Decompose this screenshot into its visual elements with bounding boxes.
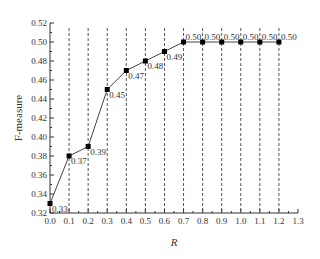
y-tick-label: 0.44 [31, 94, 47, 104]
y-tick-label: 0.32 [31, 208, 47, 218]
data-label: 0.49 [166, 52, 182, 62]
data-labels: 0.330.370.390.450.470.480.490.500.500.50… [52, 32, 297, 214]
axes: 0.00.10.20.30.40.50.60.70.80.91.01.11.21… [31, 18, 304, 226]
data-label: 0.47 [128, 71, 144, 81]
data-label: 0.50 [243, 32, 259, 42]
y-tick-label: 0.46 [31, 75, 47, 85]
x-tick-label: 0.3 [102, 216, 114, 226]
data-label: 0.50 [186, 32, 202, 42]
x-tick-label: 0.5 [140, 216, 152, 226]
data-label: 0.33 [52, 204, 68, 214]
data-label: 0.50 [205, 32, 221, 42]
x-tick-label: 0.7 [178, 216, 190, 226]
y-tick-label: 0.36 [31, 170, 47, 180]
y-tick-label: 0.48 [31, 56, 47, 66]
y-tick-label: 0.40 [31, 132, 47, 142]
x-axis-label: R [170, 236, 178, 248]
data-label: 0.37 [71, 156, 87, 166]
x-tick-label: 0.9 [216, 216, 228, 226]
y-axis-label: F-measure [12, 95, 24, 142]
data-label: 0.39 [90, 147, 106, 157]
y-tick-label: 0.34 [31, 189, 47, 199]
x-tick-label: 0.6 [159, 216, 171, 226]
x-tick-label: 0.2 [83, 216, 94, 226]
y-tick-label: 0.52 [31, 18, 47, 28]
data-label: 0.50 [224, 32, 240, 42]
x-tick-label: 0.1 [63, 216, 74, 226]
x-tick-label: 0.8 [197, 216, 209, 226]
data-label: 0.48 [147, 61, 163, 71]
data-label: 0.45 [109, 90, 125, 100]
data-label: 0.50 [262, 32, 278, 42]
x-tick-label: 1.1 [254, 216, 265, 226]
line-chart: 0.00.10.20.30.40.50.60.70.80.91.01.11.21… [0, 0, 320, 259]
x-tick-label: 1.3 [292, 216, 304, 226]
data-label: 0.50 [281, 32, 297, 42]
x-tick-label: 1.2 [273, 216, 284, 226]
x-tick-label: 1.0 [235, 216, 247, 226]
y-tick-label: 0.38 [31, 151, 47, 161]
x-tick-label: 0.4 [121, 216, 133, 226]
y-tick-label: 0.50 [31, 37, 47, 47]
y-tick-label: 0.42 [31, 113, 47, 123]
